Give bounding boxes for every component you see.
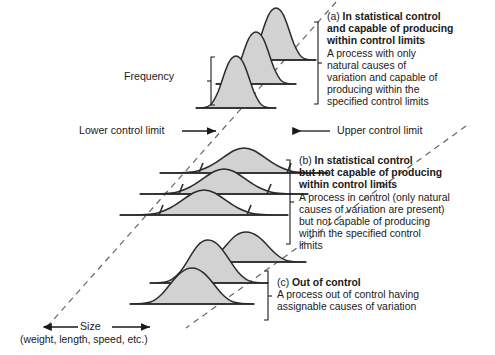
- spc-diagram: Frequency Lower control limit Upper cont…: [0, 0, 495, 355]
- group-a-body-line-4: producing within the: [327, 84, 493, 96]
- group-c-body-line-1: A process out of control having: [277, 289, 492, 301]
- group-b-body-line-3: but not capable of producing: [299, 216, 495, 228]
- group-c-text-block: (c) Out of control A process out of cont…: [277, 277, 492, 314]
- group-b-body-line-5: limits: [299, 240, 495, 252]
- group-a-heading-line-1: In statistical control: [343, 11, 441, 22]
- group-a-body-line-1: A process with only: [327, 48, 493, 60]
- group-b-marker: (b): [299, 155, 312, 166]
- group-a-heading-line-3: within control limits: [327, 35, 493, 47]
- group-b-heading-line-2: but not capable of producing: [299, 167, 495, 179]
- group-a-heading-line-2: and capable of producing: [327, 23, 493, 35]
- group-b-text-block: (b) In statistical control but not capab…: [299, 155, 495, 253]
- group-a-body-line-3: variation and capable of: [327, 72, 493, 84]
- group-a-marker: (a): [327, 11, 340, 22]
- group-c-bracket: [264, 271, 272, 320]
- group-b-heading-line-3: within control limits: [299, 179, 495, 191]
- group-b-body-line-1: A process in control (only natural: [299, 192, 495, 204]
- group-a-body-line-5: specified control limits: [327, 96, 493, 108]
- group-b-heading-line-1: In statistical control: [315, 155, 413, 166]
- group-a-bracket: [314, 22, 322, 104]
- group-b-body-line-2: causes of variation are present): [299, 204, 495, 216]
- group-c-marker: (c): [277, 277, 289, 288]
- group-c-heading-line-1: Out of control: [292, 277, 361, 288]
- size-axis-sublabel: (weight, length, speed, etc.): [20, 334, 148, 345]
- frequency-axis-label: Frequency: [124, 70, 174, 82]
- group-a-body-line-2: natural causes of: [327, 60, 493, 72]
- lower-control-limit-label: Lower control limit: [79, 124, 164, 136]
- frequency-bracket: [207, 57, 215, 105]
- group-a-text-block: (a) In statistical control and capable o…: [327, 11, 493, 109]
- upper-control-limit-label: Upper control limit: [337, 124, 422, 136]
- group-c-body-line-2: assignable causes of variation: [277, 301, 492, 313]
- group-b-body-line-4: within the specified control: [299, 228, 495, 240]
- size-axis-label: Size: [80, 320, 101, 332]
